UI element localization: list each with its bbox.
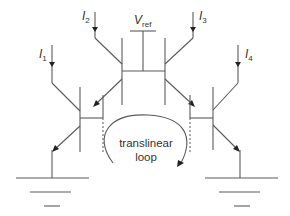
- transistor-q4: [190, 83, 240, 178]
- i2-subscript: 2: [85, 16, 90, 25]
- svg-text:I4: I4: [245, 47, 253, 63]
- svg-text:Vref: Vref: [134, 13, 152, 29]
- translinear-circuit-diagram: I2 I3 Vref I1: [0, 0, 290, 216]
- current-i1: I1: [39, 45, 55, 83]
- arrow-down-icon: [235, 62, 241, 67]
- i1-subscript: 1: [42, 54, 47, 63]
- loop-label-line1: translinear: [119, 137, 173, 149]
- current-i4: I4: [235, 45, 253, 83]
- i3-subscript: 3: [202, 16, 207, 25]
- arrow-curve-icon: [177, 160, 184, 167]
- current-i3: I3: [190, 9, 207, 38]
- current-i2: I2: [82, 9, 98, 38]
- transistor-q1: [52, 83, 103, 178]
- vref-subscript: ref: [142, 20, 152, 29]
- arrow-down-icon: [49, 62, 55, 67]
- svg-text:I1: I1: [39, 47, 47, 63]
- arrow-down-icon: [92, 27, 98, 32]
- svg-text:I3: I3: [199, 9, 207, 25]
- ground-symbol-left: [16, 178, 89, 206]
- i4-subscript: 4: [248, 54, 253, 63]
- arrow-down-icon: [190, 27, 196, 32]
- transistor-q2: [93, 38, 122, 107]
- loop-label-line2: loop: [135, 151, 157, 163]
- vref-node: Vref: [130, 13, 156, 71]
- ground-symbol-right: [205, 178, 278, 206]
- svg-text:I2: I2: [82, 9, 90, 25]
